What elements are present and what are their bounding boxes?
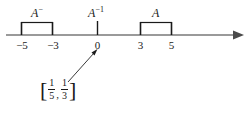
tick-label-three: 3 (135, 40, 146, 51)
number-line-figure: A− A−1 A −5 −3 0 3 5 [ 1 5 , 1 3 ] (0, 0, 251, 119)
separator-comma: , (56, 89, 59, 101)
tick-label-minus-three: −3 (44, 40, 62, 51)
fraction-numerator: 1 (48, 78, 55, 89)
label-set-a: A (152, 6, 160, 19)
fraction-denominator: 5 (48, 90, 55, 101)
fraction-denominator: 3 (61, 90, 68, 101)
open-bracket: [ (40, 79, 47, 101)
interval-notation: [ 1 5 , 1 3 ] (40, 78, 76, 101)
label-set-a-minus: A− (31, 6, 43, 19)
interval-bracket-negative (21, 22, 53, 35)
fraction-one-third: 1 3 (61, 78, 68, 101)
fraction-numerator: 1 (61, 78, 68, 89)
tick-label-minus-five: −5 (13, 40, 31, 51)
label-set-a-inverse: A−1 (88, 6, 104, 19)
fraction-one-fifth: 1 5 (48, 78, 55, 101)
axis-arrowhead-icon (233, 31, 244, 40)
interval-bracket-positive (140, 22, 172, 35)
tick-label-zero: 0 (92, 40, 103, 51)
close-bracket: ] (69, 79, 76, 101)
tick-label-five: 5 (166, 40, 177, 51)
